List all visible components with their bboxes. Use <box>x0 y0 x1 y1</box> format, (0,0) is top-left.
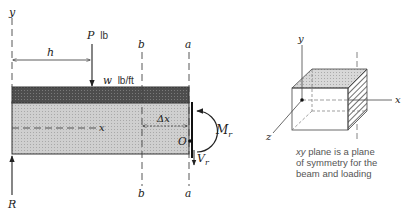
distributed-load-label: w lb/ft <box>103 74 134 86</box>
section-a-top-label: a <box>185 38 191 50</box>
section-b-top-label: b <box>138 38 145 50</box>
delta-x-label: Δx <box>156 113 170 124</box>
cube-y-label: y <box>297 33 304 44</box>
moment-arc <box>197 111 217 152</box>
cube-diagram: y x z xy plane is a plane of symmetry fo… <box>265 33 401 179</box>
cube-z-axis <box>273 100 302 133</box>
cube-caption-line2: of symmetry for the <box>296 157 377 168</box>
cube-caption-line3: beam and loading <box>296 168 372 179</box>
section-a-bottom-label: a <box>185 187 191 199</box>
figure: y x P lb h w lb/ft b b a a Δx <box>0 0 413 212</box>
distributed-load-band <box>12 87 189 103</box>
shear-label: Vr <box>197 152 210 167</box>
cube-z-label: z <box>265 131 272 142</box>
y-axis-label: y <box>8 6 16 19</box>
cube-caption-line1: xy plane is a plane <box>295 146 375 157</box>
x-axis-label: x <box>99 122 105 133</box>
cube-hidden-edge <box>292 111 312 130</box>
reaction-label: R <box>7 198 16 211</box>
moment-label: Mr <box>215 123 233 139</box>
point-O-label: O <box>178 135 187 147</box>
cube-front-face <box>292 88 348 130</box>
cube-x-label: x <box>395 94 401 105</box>
h-dimension-label: h <box>47 46 54 59</box>
point-load-label: P lb <box>86 29 108 42</box>
cube-origin <box>300 98 304 102</box>
section-b-bottom-label: b <box>138 187 145 199</box>
point-O <box>188 139 192 143</box>
beam-diagram: y x P lb h w lb/ft b b a a Δx <box>7 6 233 211</box>
